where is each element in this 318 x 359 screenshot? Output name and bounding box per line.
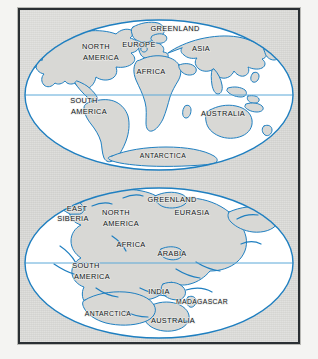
figure-container: GREENLANDEUROPENORTHAMERICAASIAAFRICASOU… [0,0,318,359]
maps-artwork: GREENLANDEUROPENORTHAMERICAASIAAFRICASOU… [0,0,318,359]
present-day-map [20,20,293,170]
pangaea-map [25,188,293,338]
